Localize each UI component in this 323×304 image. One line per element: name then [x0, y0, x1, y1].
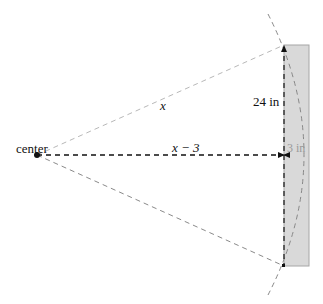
diagram-canvas — [0, 0, 323, 304]
radius-line-bottom — [37, 155, 284, 266]
circle-segment-diagram: center x x − 3 24 in 3 in — [0, 0, 323, 304]
corner-point-bottom — [282, 264, 285, 267]
hypotenuse-label: x — [160, 99, 166, 112]
horizontal-label: x − 3 — [172, 141, 200, 154]
half-height-label: 24 in — [253, 95, 279, 108]
center-label: center — [16, 142, 48, 155]
thickness-label: 3 in — [287, 142, 305, 154]
